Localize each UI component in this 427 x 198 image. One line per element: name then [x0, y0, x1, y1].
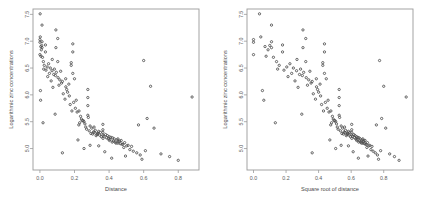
data-point — [322, 64, 324, 66]
data-point — [39, 99, 41, 101]
data-point — [40, 49, 42, 51]
data-point — [335, 147, 337, 149]
data-point — [376, 154, 378, 156]
data-point — [44, 51, 46, 53]
data-point — [61, 152, 63, 154]
data-point — [324, 101, 326, 103]
data-point — [72, 72, 74, 74]
data-point — [265, 55, 267, 57]
data-point — [120, 139, 122, 141]
data-point — [66, 91, 68, 93]
data-point — [146, 117, 148, 119]
data-point — [90, 132, 92, 134]
data-point — [270, 46, 272, 48]
data-point — [54, 74, 56, 76]
x-tick-label: 0.8 — [380, 175, 387, 181]
data-point — [323, 43, 325, 45]
data-point — [139, 154, 141, 156]
data-point — [51, 58, 53, 60]
scatter-panel-distance: 0.00.20.40.60.85.05.56.06.57.07.5Distanc… — [0, 0, 213, 198]
data-point — [102, 123, 104, 125]
data-point — [99, 131, 101, 133]
data-point — [77, 139, 79, 141]
data-point — [76, 111, 78, 113]
data-point — [371, 145, 373, 147]
data-point — [98, 145, 100, 147]
data-point — [191, 96, 193, 98]
data-point — [393, 155, 395, 157]
data-point — [281, 51, 283, 53]
data-point — [299, 68, 301, 70]
data-point — [325, 78, 327, 80]
data-point — [338, 88, 340, 90]
data-points — [252, 13, 407, 162]
data-point — [319, 83, 321, 85]
data-point — [43, 64, 45, 66]
data-point — [274, 122, 276, 124]
plot-frame — [33, 9, 199, 170]
data-point — [306, 84, 308, 86]
scatter-plot-distance: 0.00.20.40.60.85.05.56.06.57.07.5Distanc… — [0, 0, 213, 198]
data-point — [286, 66, 288, 68]
data-point — [42, 122, 44, 124]
data-point — [264, 45, 266, 47]
data-points — [39, 13, 193, 162]
data-point — [351, 123, 353, 125]
data-point — [70, 62, 72, 64]
data-point — [252, 53, 254, 55]
data-point — [72, 43, 74, 45]
data-point — [79, 115, 81, 117]
data-point — [104, 151, 106, 153]
plot-frame — [247, 9, 413, 170]
data-point — [136, 152, 138, 154]
data-point — [252, 38, 254, 40]
data-point — [308, 79, 310, 81]
data-point — [372, 150, 374, 152]
data-point — [263, 99, 265, 101]
data-point — [168, 155, 170, 157]
data-point — [357, 157, 359, 159]
data-point — [301, 113, 303, 115]
data-point — [330, 124, 332, 126]
data-point — [252, 41, 254, 43]
data-point — [352, 151, 354, 153]
data-point — [39, 38, 41, 40]
x-tick-label: 0.8 — [175, 175, 182, 181]
data-point — [367, 155, 369, 157]
data-point — [311, 152, 313, 154]
data-point — [59, 79, 61, 81]
x-axis-title: Square root of distance — [301, 186, 359, 192]
data-point — [320, 103, 322, 105]
data-point — [130, 145, 132, 147]
data-point — [340, 125, 342, 127]
y-tick-label: 6.0 — [24, 91, 30, 98]
y-tick-label: 6.0 — [238, 91, 244, 98]
data-point — [301, 74, 303, 76]
data-point — [260, 36, 262, 38]
data-point — [375, 124, 377, 126]
data-point — [124, 155, 126, 157]
data-point — [331, 115, 333, 117]
data-point — [55, 71, 57, 73]
data-point — [39, 13, 41, 15]
data-point — [71, 110, 73, 112]
data-point — [317, 91, 319, 93]
data-point — [70, 64, 72, 66]
data-point — [366, 146, 368, 148]
y-axis-title: Logarithmic zinc concentrations — [222, 50, 228, 129]
data-point — [153, 127, 155, 129]
data-point — [60, 82, 62, 84]
data-point — [39, 36, 41, 38]
y-tick-label: 5.5 — [238, 118, 244, 125]
data-point — [258, 13, 260, 15]
y-tick-label: 7.0 — [238, 37, 244, 44]
data-point — [137, 124, 139, 126]
data-point — [54, 113, 56, 115]
data-point — [309, 70, 311, 72]
data-point — [277, 68, 279, 70]
data-point — [269, 44, 271, 46]
data-point — [60, 70, 62, 72]
data-point — [57, 60, 59, 62]
data-point — [57, 37, 59, 39]
x-tick-label: 0.4 — [315, 175, 322, 181]
